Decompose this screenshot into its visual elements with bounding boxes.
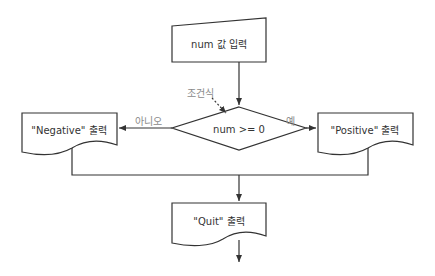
edge-no-label: 아니오 bbox=[135, 113, 162, 128]
input-node-label: num 값 입력 bbox=[191, 36, 247, 51]
edge-yes-label: 예 bbox=[286, 113, 295, 128]
quit-node-label: "Quit" 출력 bbox=[193, 213, 244, 228]
negative-node-label: "Negative" 출력 bbox=[31, 122, 106, 137]
edge-negative-merge bbox=[72, 148, 239, 175]
annotation-pointer bbox=[212, 98, 226, 113]
positive-node-label: "Positive" 출력 bbox=[331, 122, 400, 137]
condition-annotation: 조건식 bbox=[187, 85, 214, 100]
condition-node-label: num >= 0 bbox=[213, 124, 265, 135]
